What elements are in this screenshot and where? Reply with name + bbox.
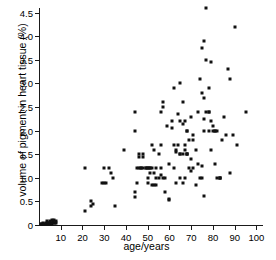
data-point: [151, 143, 154, 146]
data-point: [220, 139, 223, 142]
data-point: [211, 124, 214, 127]
data-point: [207, 129, 210, 132]
data-point: [175, 181, 178, 184]
data-point: [159, 167, 162, 170]
data-point: [207, 87, 210, 90]
data-point: [183, 148, 186, 151]
x-axis-label: age/years: [39, 240, 254, 252]
x-tick-mark: [126, 226, 127, 230]
data-point: [138, 155, 141, 158]
x-tick-mark: [213, 226, 214, 230]
data-point: [164, 176, 167, 179]
data-point: [203, 194, 206, 197]
data-point: [192, 139, 195, 142]
data-point: [168, 162, 171, 165]
data-point: [229, 172, 232, 175]
data-point: [114, 205, 117, 208]
x-tick-mark: [256, 226, 257, 230]
data-point: [194, 183, 197, 186]
x-tick-mark: [82, 226, 83, 230]
data-point: [203, 40, 206, 43]
y-tick-mark: [35, 225, 39, 226]
data-point: [133, 129, 136, 132]
data-point: [109, 172, 112, 175]
data-point: [153, 148, 156, 151]
y-tick-mark: [35, 60, 39, 61]
data-point: [172, 167, 175, 170]
data-point: [231, 134, 234, 137]
data-point: [170, 127, 173, 130]
data-point: [181, 101, 184, 104]
data-point: [201, 165, 204, 168]
data-point: [157, 153, 160, 156]
data-point: [209, 120, 212, 123]
data-point: [159, 110, 162, 113]
data-point: [166, 124, 169, 127]
data-point: [151, 167, 154, 170]
data-point: [225, 134, 228, 137]
data-point: [233, 25, 236, 28]
data-point: [179, 176, 182, 179]
data-point: [183, 143, 186, 146]
data-point: [135, 181, 138, 184]
data-point: [170, 120, 173, 123]
data-point: [122, 148, 125, 151]
data-point: [133, 110, 136, 113]
data-point: [205, 58, 208, 61]
y-axis-line: [39, 8, 40, 225]
x-tick-mark: [148, 226, 149, 230]
data-point: [105, 181, 108, 184]
data-point: [168, 199, 171, 202]
data-point: [153, 172, 156, 175]
data-point: [83, 167, 86, 170]
data-point: [161, 106, 164, 109]
y-tick-label: 0: [28, 220, 33, 231]
y-tick-label: 2.5: [20, 102, 33, 113]
data-point: [209, 148, 212, 151]
x-tick-mark: [169, 226, 170, 230]
y-tick-label: 0.5: [20, 196, 33, 207]
data-point: [177, 113, 180, 116]
data-point: [190, 115, 193, 118]
y-tick-mark: [35, 154, 39, 155]
data-point: [164, 190, 167, 193]
data-point: [181, 153, 184, 156]
data-point: [201, 47, 204, 50]
data-point: [159, 143, 162, 146]
y-tick-mark: [35, 178, 39, 179]
data-point: [155, 183, 158, 186]
x-axis-line: [39, 225, 263, 226]
data-point: [216, 129, 219, 132]
x-tick-mark: [235, 226, 236, 230]
data-point: [207, 110, 210, 113]
data-point: [227, 68, 230, 71]
data-point: [142, 155, 145, 158]
data-point: [196, 110, 199, 113]
data-point: [201, 91, 204, 94]
data-point: [83, 209, 86, 212]
data-point: [92, 202, 95, 205]
y-tick-mark: [35, 107, 39, 108]
y-tick-mark: [35, 131, 39, 132]
data-point: [209, 61, 212, 64]
y-tick-label: 1.0: [20, 172, 33, 183]
y-tick-label: 1.5: [20, 149, 33, 160]
data-point: [203, 117, 206, 120]
data-point: [214, 162, 217, 165]
data-point: [103, 167, 106, 170]
data-point: [107, 167, 110, 170]
data-point: [111, 176, 114, 179]
data-point: [196, 162, 199, 165]
y-tick-mark: [35, 13, 39, 14]
y-tick-label: 3.0: [20, 78, 33, 89]
data-point: [146, 181, 149, 184]
y-tick-mark: [35, 201, 39, 202]
data-point: [177, 143, 180, 146]
data-point: [194, 148, 197, 151]
scatter-plot-figure: volume of pigment in heart tissue (%) 00…: [0, 0, 276, 260]
data-point: [244, 110, 247, 113]
data-point: [172, 87, 175, 90]
data-point: [235, 143, 238, 146]
plot-area: 00.51.01.52.02.53.03.54.04.5 10203040506…: [39, 8, 263, 225]
data-point: [179, 82, 182, 85]
